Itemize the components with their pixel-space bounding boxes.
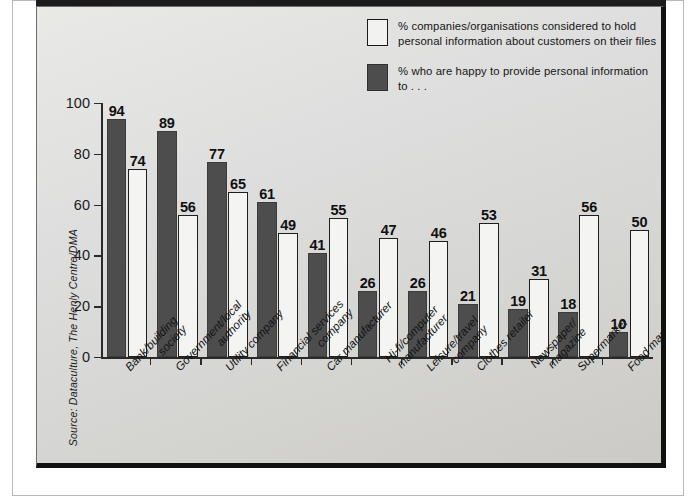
y-axis-tick — [94, 255, 101, 256]
chart-panel: % companies/organisations considered to … — [36, 6, 666, 468]
bar-value-label: 89 — [159, 115, 175, 131]
bar-value-label: 50 — [632, 214, 648, 230]
y-axis-tick-label: 80 — [74, 146, 90, 162]
chart-legend: % companies/organisations considered to … — [367, 19, 657, 109]
legend-item-companies-hold: % companies/organisations considered to … — [367, 19, 657, 48]
bar-value-label: 94 — [109, 103, 125, 119]
legend-label-happy-to-provide: % who are happy to provide personal info… — [398, 64, 657, 93]
bar-value-label: 26 — [360, 275, 376, 291]
bar-value-label: 19 — [510, 293, 526, 309]
bar-value-label: 65 — [230, 176, 246, 192]
bar-value-label: 18 — [560, 296, 576, 312]
y-axis-tick-label: 0 — [82, 349, 90, 365]
bar-group: 9474 — [107, 103, 148, 357]
bar-companies-hold: 50 — [630, 230, 650, 357]
legend-label-line2: personal information about customers on … — [398, 34, 656, 49]
y-axis-tick — [94, 103, 101, 104]
legend-item-happy-to-provide: % who are happy to provide personal info… — [367, 64, 657, 93]
source-note: Source: Dataculture, The Henly Centre/DM… — [67, 229, 79, 446]
bar-value-label: 77 — [209, 146, 225, 162]
bar-value-label: 31 — [531, 263, 547, 279]
bar-value-label: 53 — [481, 207, 497, 223]
bar-value-label: 61 — [259, 186, 275, 202]
y-axis-tick — [94, 306, 101, 307]
bar-value-label: 55 — [330, 202, 346, 218]
bar-companies-hold: 49 — [278, 233, 298, 357]
bar-value-label: 56 — [180, 199, 196, 215]
y-axis-tick — [94, 205, 101, 206]
bar-value-label: 21 — [460, 288, 476, 304]
bar-companies-hold: 74 — [128, 169, 148, 357]
y-axis-tick-label: 100 — [66, 95, 90, 111]
y-axis-tick — [94, 154, 101, 155]
legend-label-line1: % who are happy to provide personal info… — [398, 64, 657, 93]
legend-swatch-light — [367, 19, 388, 46]
bar-value-label: 41 — [309, 237, 325, 253]
y-axis-tick — [94, 357, 101, 358]
bar-happy-to-provide: 94 — [107, 119, 127, 358]
y-axis-tick-label: 60 — [74, 197, 90, 213]
legend-label-line1: % companies/organisations considered to … — [398, 19, 656, 34]
bar-value-label: 47 — [381, 222, 397, 238]
bar-value-label: 49 — [280, 217, 296, 233]
figure-page: % companies/organisations considered to … — [0, 0, 697, 501]
legend-swatch-dark — [367, 64, 388, 91]
bar-value-label: 74 — [130, 153, 146, 169]
legend-label-companies-hold: % companies/organisations considered to … — [398, 19, 656, 48]
x-axis-category-labels: Bank/buildingsocietyGovernment/localauth… — [101, 359, 661, 467]
bar-value-label: 26 — [410, 275, 426, 291]
bar-value-label: 56 — [581, 199, 597, 215]
bar-value-label: 46 — [431, 225, 447, 241]
